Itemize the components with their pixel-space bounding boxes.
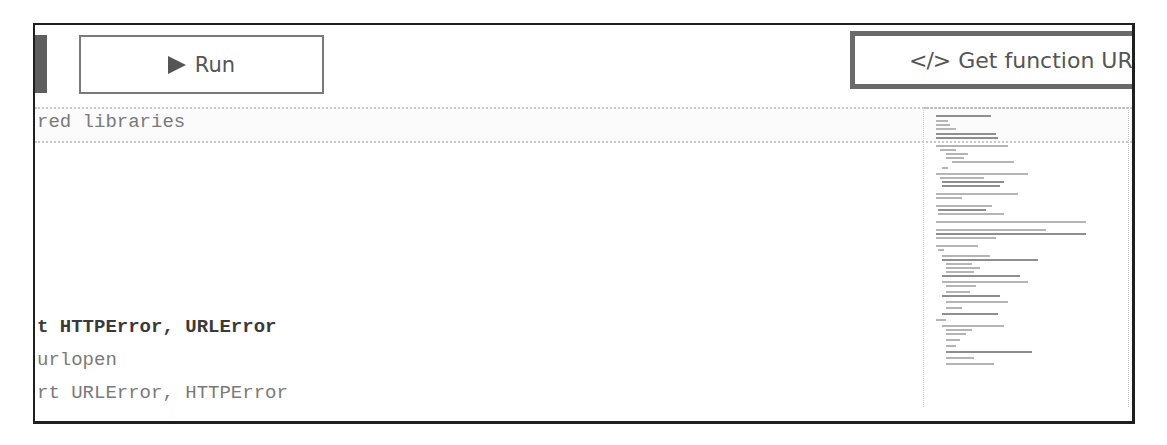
- minimap-line: [936, 233, 1086, 235]
- minimap-line: [936, 137, 998, 139]
- play-icon: [168, 56, 186, 74]
- minimap-scrollbar[interactable]: [1128, 107, 1129, 407]
- minimap-line: [936, 229, 1046, 231]
- minimap-line: [946, 339, 960, 341]
- minimap-line: [946, 267, 980, 269]
- minimap-line: [936, 237, 996, 239]
- minimap-line: [940, 149, 956, 151]
- minimap-line: [946, 157, 964, 159]
- code-line-1[interactable]: red libraries: [37, 109, 185, 135]
- minimap-line: [938, 213, 1004, 215]
- minimap-line: [936, 145, 1008, 147]
- minimap-line: [936, 319, 946, 321]
- minimap-line: [936, 120, 948, 122]
- minimap-line: [936, 173, 1028, 175]
- minimap-line: [946, 351, 1032, 353]
- minimap-line: [942, 313, 998, 315]
- minimap-line: [946, 357, 974, 359]
- minimap-line: [942, 255, 990, 257]
- minimap-line: [946, 271, 974, 273]
- minimap-line: [936, 128, 956, 130]
- minimap-line: [936, 197, 962, 199]
- minimap-line: [946, 333, 966, 335]
- minimap-line: [942, 181, 1004, 183]
- minimap-line: [946, 301, 1008, 303]
- get-function-url-label: Get function URL: [958, 48, 1135, 73]
- minimap-line: [936, 193, 1018, 195]
- minimap-line: [946, 291, 970, 293]
- minimap-viewport-edge: [924, 107, 1129, 109]
- minimap-line: [946, 363, 994, 365]
- minimap-line: [940, 177, 984, 179]
- minimap-line: [936, 205, 992, 207]
- minimap-line: [936, 115, 991, 117]
- code-minimap[interactable]: [923, 107, 1129, 407]
- left-panel-edge[interactable]: [35, 35, 47, 93]
- get-function-url-button[interactable]: </> Get function URL: [850, 31, 1135, 89]
- run-button-label: Run: [195, 53, 235, 77]
- code-line-9[interactable]: rt URLError, HTTPError: [37, 380, 288, 406]
- minimap-line: [942, 167, 948, 169]
- minimap-line: [936, 245, 978, 247]
- code-editor-window: Run </> Get function URL red libraries t…: [33, 23, 1135, 424]
- minimap-line: [946, 263, 972, 265]
- minimap-line: [952, 161, 1014, 163]
- minimap-line: [946, 307, 962, 309]
- minimap-line: [946, 153, 968, 155]
- code-line-8[interactable]: urlopen: [37, 347, 117, 373]
- code-icon: </>: [909, 48, 950, 73]
- minimap-line: [946, 329, 972, 331]
- minimap-line: [942, 325, 1004, 327]
- minimap-line: [942, 275, 1020, 277]
- minimap-line: [942, 259, 1038, 261]
- minimap-line: [938, 249, 944, 251]
- minimap-line: [942, 185, 1000, 187]
- minimap-line: [942, 295, 1000, 297]
- minimap-line: [942, 281, 1028, 283]
- minimap-line: [936, 133, 996, 135]
- run-button[interactable]: Run: [79, 35, 324, 94]
- minimap-line: [946, 345, 956, 347]
- minimap-line: [936, 124, 950, 126]
- code-line-7[interactable]: t HTTPError, URLError: [37, 314, 276, 340]
- minimap-line: [946, 285, 976, 287]
- minimap-line: [936, 221, 1086, 223]
- minimap-line: [938, 209, 986, 211]
